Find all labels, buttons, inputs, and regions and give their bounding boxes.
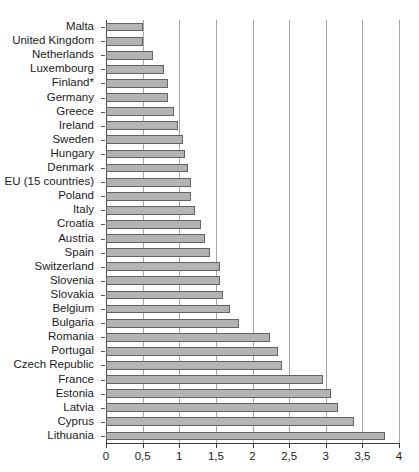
bar-row (106, 373, 399, 387)
category-label: Estonia (56, 388, 94, 400)
category-label: Czech Republic (13, 359, 94, 371)
bar-row (106, 232, 399, 246)
category-tick (101, 182, 105, 183)
category-tick (101, 27, 105, 28)
category-label: Slovenia (50, 275, 94, 287)
category-label: Sweden (52, 134, 94, 146)
category-tick (101, 295, 105, 296)
bar (106, 432, 385, 441)
bar (106, 107, 174, 116)
x-axis-tick-label: 4 (396, 450, 402, 462)
bar-row (106, 415, 399, 429)
x-axis-tick (216, 443, 217, 448)
category-label: Spain (65, 247, 94, 259)
category-tick (101, 112, 105, 113)
gridline-4 (399, 20, 400, 443)
x-axis-tick (253, 443, 254, 448)
bar (106, 276, 220, 285)
bar-row (106, 175, 399, 189)
x-axis-tick-label: 1,5 (208, 450, 224, 462)
x-axis-tick-label: 1 (176, 450, 182, 462)
bar (106, 51, 153, 60)
category-tick (101, 309, 105, 310)
bar-row (106, 91, 399, 105)
bar-row (106, 401, 399, 415)
category-tick (101, 394, 105, 395)
category-tick (101, 41, 105, 42)
bar (106, 37, 143, 46)
category-tick (101, 196, 105, 197)
category-label: Finland* (52, 77, 94, 89)
plot-area (106, 20, 399, 443)
bar (106, 375, 323, 384)
bar (106, 361, 282, 370)
bar-row (106, 76, 399, 90)
category-tick (101, 55, 105, 56)
x-axis-tick-label: 3,5 (354, 450, 370, 462)
bar (106, 150, 185, 159)
bar (106, 248, 210, 257)
bar-row (106, 288, 399, 302)
category-label: Cyprus (58, 416, 94, 428)
bar-row (106, 387, 399, 401)
bar (106, 164, 188, 173)
bar-row (106, 105, 399, 119)
bar (106, 23, 143, 32)
category-axis: MaltaUnited KingdomNetherlandsLuxembourg… (0, 20, 102, 443)
category-label: Germany (47, 92, 94, 104)
bar-row (106, 429, 399, 443)
bar-row (106, 48, 399, 62)
category-tick (101, 380, 105, 381)
category-label: Austria (58, 233, 94, 245)
bar-row (106, 246, 399, 260)
x-axis-tick (179, 443, 180, 448)
category-tick (101, 422, 105, 423)
bar-row (106, 344, 399, 358)
category-label: Greece (56, 106, 94, 118)
category-tick (101, 253, 105, 254)
bar (106, 79, 168, 88)
category-tick (101, 126, 105, 127)
bar-row (106, 217, 399, 231)
x-axis-tick (143, 443, 144, 448)
bar-row (106, 260, 399, 274)
bar-row (106, 203, 399, 217)
bar-row (106, 330, 399, 344)
category-tick (101, 83, 105, 84)
bar (106, 319, 239, 328)
category-label: Belgium (52, 303, 94, 315)
bar-row (106, 62, 399, 76)
bar (106, 65, 164, 74)
x-axis-tick-label: 3 (323, 450, 329, 462)
bar-row (106, 119, 399, 133)
category-label: Romania (48, 331, 94, 343)
x-axis-tick-label: 0 (103, 450, 109, 462)
bar-row (106, 20, 399, 34)
category-label: Poland (58, 190, 94, 202)
bar (106, 347, 278, 356)
bar (106, 389, 331, 398)
category-label: Croatia (57, 218, 94, 230)
category-tick (101, 224, 105, 225)
x-axis-tick (289, 443, 290, 448)
category-label: Ireland (59, 120, 94, 132)
bar-row (106, 147, 399, 161)
bar (106, 178, 191, 187)
x-axis-tick-label: 2 (249, 450, 255, 462)
x-axis-tick (399, 443, 400, 448)
category-tick (101, 337, 105, 338)
bar-chart: MaltaUnited KingdomNetherlandsLuxembourg… (0, 0, 419, 472)
category-tick (101, 436, 105, 437)
x-axis-tick (362, 443, 363, 448)
bar (106, 192, 191, 201)
bar-row (106, 189, 399, 203)
category-tick (101, 408, 105, 409)
bar-row (106, 358, 399, 372)
category-label: United Kingdom (12, 35, 94, 47)
category-label: Portugal (51, 345, 94, 357)
category-label: Latvia (63, 402, 94, 414)
x-axis-tick-label: 2,5 (281, 450, 297, 462)
category-label: EU (15 countries) (5, 176, 94, 188)
category-tick (101, 239, 105, 240)
category-tick (101, 210, 105, 211)
